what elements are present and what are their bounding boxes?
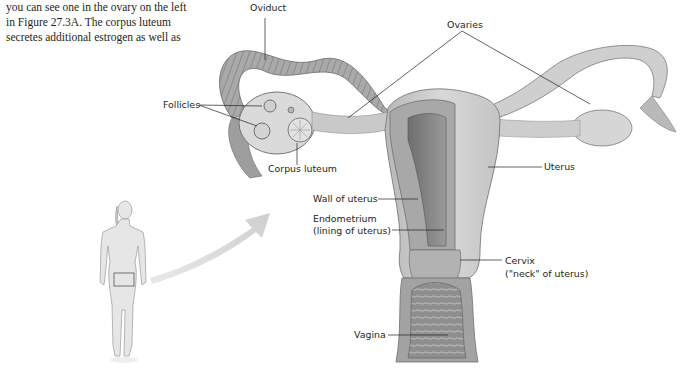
label-cervix: Cervix xyxy=(505,255,535,267)
label-vagina: Vagina xyxy=(354,329,386,341)
label-ovaries: Ovaries xyxy=(447,19,483,31)
right-ovary xyxy=(572,110,632,146)
label-oviduct: Oviduct xyxy=(250,2,286,14)
reproductive-anatomy-illustration xyxy=(0,0,687,375)
label-wall-of-uterus: Wall of uterus xyxy=(313,193,378,205)
label-corpus-luteum: Corpus luteum xyxy=(268,163,337,175)
label-follicles: Follicles xyxy=(163,99,200,111)
label-endometrium-desc: (lining of uterus) xyxy=(313,225,391,237)
label-endometrium: Endometrium xyxy=(313,213,377,225)
label-cervix-desc: ("neck" of uterus) xyxy=(505,268,588,280)
enlargement-arrow-icon xyxy=(150,213,270,284)
vagina xyxy=(396,278,478,362)
label-uterus: Uterus xyxy=(544,161,575,173)
left-ovary xyxy=(239,92,315,154)
female-figure xyxy=(100,201,146,363)
uterus xyxy=(385,89,500,282)
